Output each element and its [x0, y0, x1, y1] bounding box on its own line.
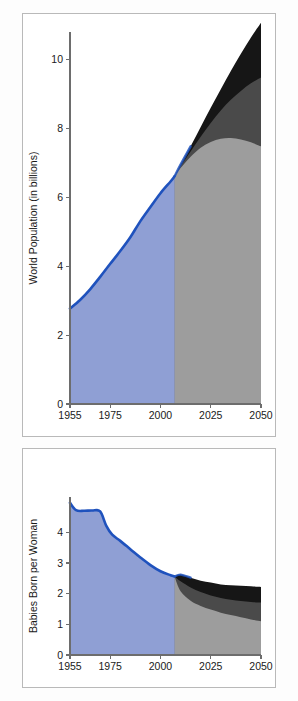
x-tick-label: 1955 — [58, 660, 82, 672]
babies-per-woman-chart: 0123419551975200020252050Babies Born per… — [23, 449, 275, 687]
y-tick-label: 0 — [57, 398, 63, 410]
plot-area — [70, 503, 261, 655]
y-tick-label: 1 — [57, 618, 63, 630]
x-tick-label: 2000 — [149, 409, 173, 421]
y-tick-label: 4 — [57, 260, 63, 272]
x-tick-label: 2050 — [249, 409, 273, 421]
y-tick-label: 3 — [57, 557, 63, 569]
y-tick-label: 6 — [57, 191, 63, 203]
x-tick-label: 2025 — [199, 660, 223, 672]
world-population-chart: 024681019551975200020252050World Populat… — [23, 14, 275, 436]
y-tick-label: 2 — [57, 587, 63, 599]
y-axis-title: World Population (in billions) — [27, 152, 39, 285]
figure-container: 024681019551975200020252050World Populat… — [0, 0, 298, 701]
x-tick-label: 2025 — [199, 409, 223, 421]
y-tick-label: 4 — [57, 526, 63, 538]
historical-area-fill — [70, 503, 175, 655]
y-tick-label: 0 — [57, 649, 63, 661]
x-tick-label: 1955 — [58, 409, 82, 421]
x-tick-label: 2000 — [149, 660, 173, 672]
y-tick-label: 8 — [57, 122, 63, 134]
chart-panel-world-population: 024681019551975200020252050World Populat… — [22, 13, 276, 437]
chart-panel-babies-per-woman: 0123419551975200020252050Babies Born per… — [22, 448, 276, 688]
x-tick-label: 1975 — [99, 660, 123, 672]
x-tick-label: 1975 — [99, 409, 123, 421]
projection-band-low — [175, 138, 261, 404]
x-tick-label: 2050 — [249, 660, 273, 672]
y-tick-label: 10 — [51, 53, 63, 65]
plot-area — [70, 23, 261, 404]
y-tick-label: 2 — [57, 329, 63, 341]
historical-area-fill — [70, 176, 175, 404]
y-axis-title: Babies Born per Woman — [27, 519, 39, 633]
